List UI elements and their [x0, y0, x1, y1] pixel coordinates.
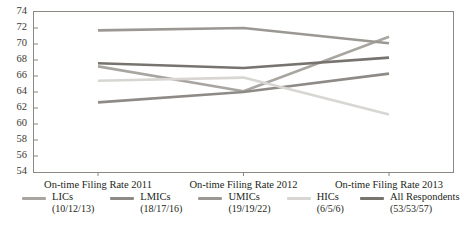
series-line-hics [98, 78, 389, 115]
y-axis-tick-label: 72 [17, 21, 28, 32]
y-axis-tick-label: 60 [17, 117, 28, 128]
legend-item-all-respondents[interactable]: All Respondents(53/53/57) [360, 191, 460, 215]
legend-swatch-icon [360, 197, 384, 200]
y-axis-tick-label: 56 [17, 149, 28, 160]
x-axis-tick-labels: On-time Filing Rate 2011On-time Filing R… [44, 179, 443, 190]
series-line-all-respondents [98, 58, 389, 68]
legend-swatch-icon [198, 197, 222, 200]
legend-label: HICs [317, 191, 344, 203]
y-axis-tick-label: 66 [17, 69, 28, 80]
legend-sublabel: (10/12/13) [52, 203, 94, 215]
legend-swatch-icon [22, 197, 46, 200]
legend-label: LMICs [140, 191, 182, 203]
series-line-umics [98, 28, 389, 43]
legend-item-lmics[interactable]: LMICs(18/17/16) [110, 191, 182, 215]
y-axis-tick-label: 74 [17, 5, 28, 16]
legend-item-lics[interactable]: LICs(10/12/13) [22, 191, 94, 215]
legend-sublabel: (6/5/6) [317, 203, 344, 215]
x-axis-tick-label: On-time Filing Rate 2012 [189, 179, 297, 190]
y-axis-tick-label: 70 [17, 37, 28, 48]
legend-swatch-icon [287, 197, 311, 200]
y-axis-tick-label: 64 [17, 85, 28, 96]
y-axis-tick-label: 62 [17, 101, 28, 112]
legend-sublabel: (53/53/57) [390, 203, 460, 215]
legend-label: All Respondents [390, 191, 460, 203]
line-chart-plot: 7472706866646260585654 On-time Filing Ra… [0, 0, 466, 191]
y-axis-ticks [34, 28, 38, 156]
legend-swatch-icon [110, 197, 134, 200]
chart-container: 7472706866646260585654 On-time Filing Ra… [0, 0, 466, 229]
x-axis-tick-label: On-time Filing Rate 2013 [335, 179, 443, 190]
y-axis-tick-labels: 7472706866646260585654 [17, 5, 28, 176]
legend-sublabel: (19/19/22) [228, 203, 270, 215]
y-axis-tick-label: 54 [17, 165, 28, 176]
legend-item-hics[interactable]: HICs(6/5/6) [287, 191, 344, 215]
x-axis-tick-label: On-time Filing Rate 2011 [44, 179, 152, 190]
legend-item-umics[interactable]: UMICs(19/19/22) [198, 191, 270, 215]
y-axis-tick-label: 68 [17, 53, 28, 64]
chart-legend: LICs(10/12/13)LMICs(18/17/16)UMICs(19/19… [0, 191, 466, 229]
legend-label: UMICs [228, 191, 270, 203]
legend-sublabel: (18/17/16) [140, 203, 182, 215]
series-lines [98, 28, 389, 114]
y-axis-tick-label: 58 [17, 133, 28, 144]
legend-label: LICs [52, 191, 94, 203]
